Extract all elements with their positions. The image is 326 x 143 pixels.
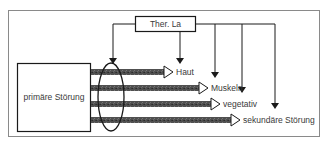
arrow-sekundaere — [91, 114, 240, 126]
arrow-down-icon — [176, 58, 184, 64]
arrow-vegetativ — [91, 98, 220, 110]
target-label-muskeln: Muskeln — [211, 83, 243, 93]
effect-arrows — [91, 66, 240, 126]
therapy-label: Ther. La — [150, 19, 181, 29]
target-label-haut: Haut — [176, 67, 195, 77]
target-label-sekundaere-stoerung: sekundäre Störung — [243, 115, 315, 125]
therapy-box: Ther. La — [136, 17, 196, 32]
target-label-vegetativ: vegetativ — [223, 99, 258, 109]
arrow-muskeln — [91, 82, 208, 94]
primary-disturbance-label: primäre Störung — [24, 92, 85, 102]
arrow-haut — [91, 66, 173, 78]
arrow-down-icon — [271, 103, 279, 109]
arrow-down-icon — [211, 72, 219, 78]
primary-disturbance-box: primäre Störung — [18, 64, 91, 132]
therapy-connectors — [113, 24, 275, 104]
diagram-canvas: primäre Störung Ther. La — [0, 0, 326, 143]
